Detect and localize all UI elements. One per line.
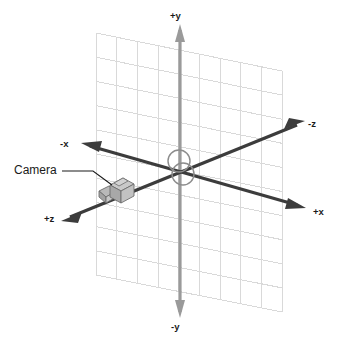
axis-label-positive-x: +x [313,206,324,217]
axis-label-positive-y: +y [170,10,181,21]
camera-icon [99,178,134,203]
axis-label-negative-z: -z [308,118,316,129]
grid-plane [96,33,282,312]
camera-callout-label: Camera [14,164,57,177]
axis-label-negative-y: -y [171,321,179,332]
axis-label-negative-x: -x [60,138,68,149]
diagram-canvas: +y -y -x +x -z +z Camera [0,0,339,347]
axis-label-positive-z: +z [44,213,54,224]
camera-leader-line [62,171,112,185]
